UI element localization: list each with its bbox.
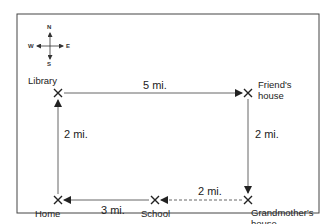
label-friends-house-line2: house (258, 90, 284, 101)
label-grandmothers-house-line1: Grandmother's (251, 207, 314, 218)
map-frame (17, 14, 319, 213)
label-grandmothers-house-line2: house (251, 218, 277, 224)
distance-library-friend: 5 mi. (143, 79, 167, 91)
compass-south: S (47, 61, 51, 67)
x-mark-friend (244, 89, 252, 97)
route-diagram (0, 0, 334, 224)
x-mark-grandmother (244, 196, 252, 204)
x-mark-home (54, 196, 62, 204)
compass-west: W (28, 43, 34, 49)
location-markers (54, 89, 252, 204)
compass-north: N (47, 24, 51, 30)
distance-friend-grandmother: 2 mi. (255, 128, 279, 140)
label-friends-house-line1: Friend's (258, 79, 292, 90)
distance-grandmother-school: 2 mi. (198, 185, 222, 197)
label-library: Library (28, 75, 57, 86)
x-mark-school (151, 196, 159, 204)
distance-school-home: 3 mi. (101, 204, 125, 216)
compass-icon (37, 33, 63, 59)
distance-home-library: 2 mi. (64, 128, 88, 140)
compass-east: E (66, 43, 70, 49)
label-home: Home (35, 208, 60, 219)
x-mark-library (54, 89, 62, 97)
label-school: School (141, 208, 170, 219)
